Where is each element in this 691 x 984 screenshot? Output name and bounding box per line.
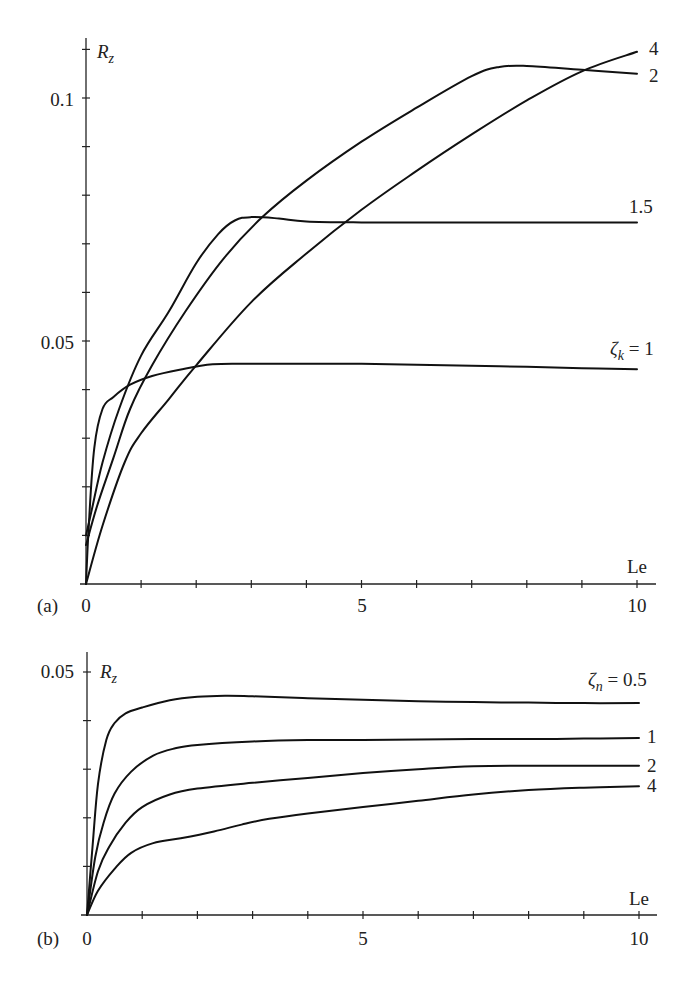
legend-b-1: 1 [647, 726, 657, 747]
panel-b-x-tick-5: 5 [358, 928, 368, 949]
panel-a-x-tick-0: 0 [81, 595, 91, 616]
panel-a-curves [86, 52, 637, 584]
panel-b-x-tick-0: 0 [82, 928, 92, 949]
curve-ζn-1 [87, 738, 639, 915]
legend-a-4: 4 [649, 38, 659, 59]
curve-ζn-0.5 [87, 696, 639, 915]
curve-ζk-1 [86, 364, 637, 584]
curve-ζn-4 [87, 786, 639, 915]
legend-a-zeta-k-1: ζk = 1 [610, 338, 654, 363]
panel-a-y-label: Rz [96, 41, 115, 66]
panel-b-y-tick-0.05: 0.05 [41, 661, 74, 682]
legend-a-2: 2 [649, 65, 659, 86]
legend-b-zeta-n-0.5: ζn = 0.5 [588, 669, 647, 694]
curve-ζk-1.5 [86, 217, 637, 535]
panel-a-y-tick-0.05: 0.05 [41, 332, 74, 353]
panel-b-curves [87, 696, 639, 915]
panel-b-x-label: Le [629, 888, 649, 909]
panel-a-x-label: Le [627, 556, 647, 577]
panel-a-x-tick-10: 10 [628, 595, 647, 616]
panel-a-tag: (a) [37, 595, 58, 617]
panel-b-y-label: Rz [99, 661, 118, 686]
legend-b-2: 2 [647, 755, 657, 776]
panel-a-x-tick-5: 5 [357, 595, 367, 616]
panel-a-y-tick-0.1: 0.1 [50, 89, 74, 110]
legend-b-4: 4 [647, 775, 657, 796]
panel-b: Rz 0.05 0 5 10 Le (b) ζn = 0.5 1 2 4 [37, 652, 657, 950]
curve-ζk-4 [86, 52, 637, 584]
legend-a-1.5: 1.5 [629, 196, 653, 217]
panel-a: Rz 0.1 0.05 0 5 10 Le (a) 4 2 1.5 ζk = 1 [37, 38, 659, 617]
panel-b-tag: (b) [37, 928, 59, 950]
curve-ζk-2 [86, 66, 637, 546]
figure: Rz 0.1 0.05 0 5 10 Le (a) 4 2 1.5 ζk = 1… [0, 0, 691, 984]
panel-b-x-tick-10: 10 [630, 928, 649, 949]
